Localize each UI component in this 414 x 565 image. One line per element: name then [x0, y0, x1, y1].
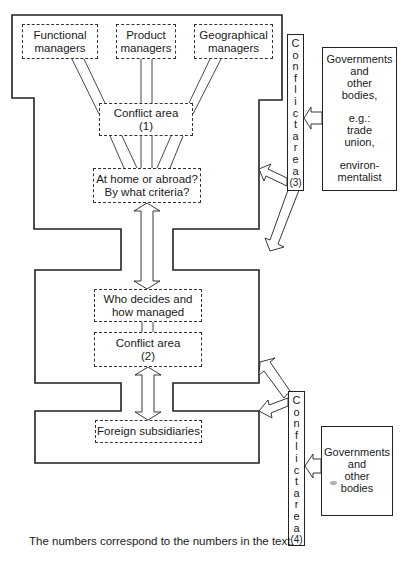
product-managers-node: Product managers — [116, 24, 176, 59]
governments-box-2: Governments and other bodies — [321, 426, 393, 516]
conflict-area-1-node: Conflict area (1) — [99, 103, 193, 136]
arrow-bar4-to-middle — [259, 358, 290, 398]
home-or-abroad-node: At home or abroad? By what criteria? — [93, 168, 201, 203]
arrow-bar3-down — [265, 190, 299, 251]
arrow-bar4-to-lower — [259, 398, 288, 418]
arrow-gov1-to-bar3 — [304, 107, 322, 129]
foreign-subsidiaries-node: Foreign subsidiaries — [95, 420, 202, 443]
conflict-area-4-bar: C o n f l i c t a r e a (4) — [288, 391, 305, 546]
conflict-area-3-bar: C o n f l i c t a r e a (3) — [287, 34, 304, 191]
geographical-managers-node: Geographical managers — [194, 24, 273, 59]
functional-managers-node: Functional managers — [22, 24, 98, 59]
governments-box-1: Governments and other bodies, e.g.: trad… — [322, 47, 397, 191]
conflict-area-2-node: Conflict area (2) — [94, 332, 202, 367]
arrow-bar3-to-upper — [259, 164, 287, 186]
figure-caption: The numbers correspond to the numbers in… — [29, 535, 294, 547]
ink-smudge — [330, 481, 337, 485]
who-decides-node: Who decides and how managed — [94, 289, 202, 322]
arrow-gov2-to-bar4 — [305, 454, 321, 478]
